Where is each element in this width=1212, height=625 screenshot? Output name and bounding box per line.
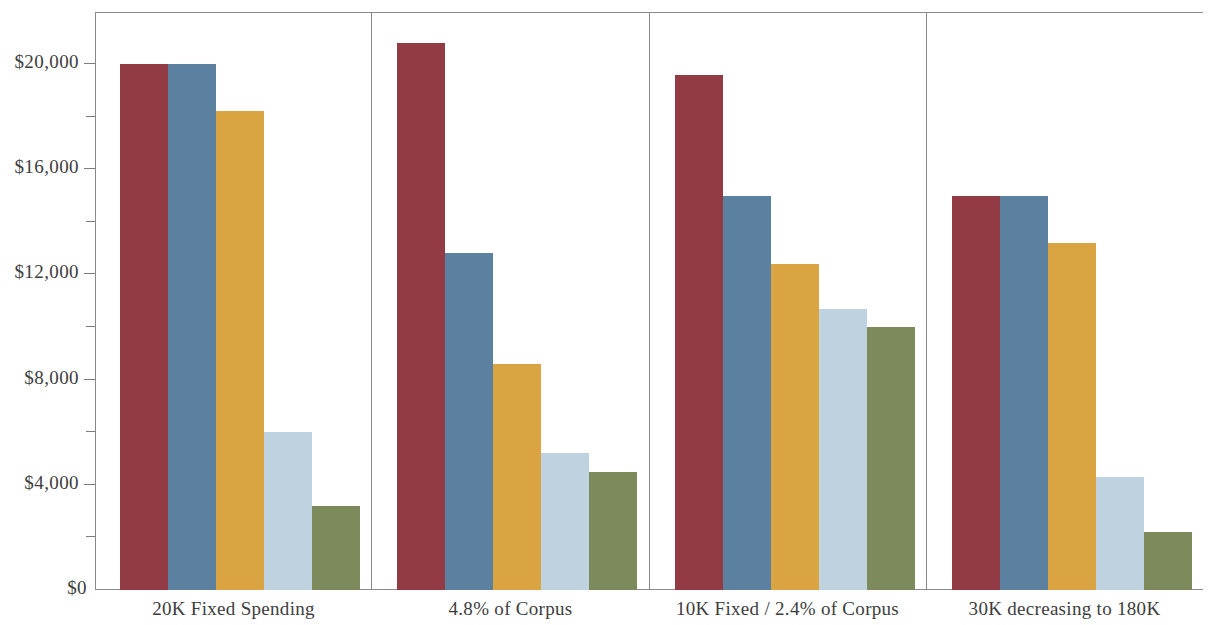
bar <box>397 43 445 590</box>
x-axis-label: 4.8% of Corpus <box>372 592 649 625</box>
bar-chart: $0$4,000$8,000$12,000$16,000$20,000 20K … <box>0 0 1212 625</box>
y-axis-tick-mark <box>84 379 95 380</box>
y-axis-tick-mark <box>86 431 95 432</box>
bar <box>1096 477 1144 590</box>
y-axis-tick-label: $4,000 <box>24 472 79 494</box>
y-axis-tick-mark <box>84 273 95 274</box>
bar <box>819 309 867 590</box>
y-axis: $0$4,000$8,000$12,000$16,000$20,000 <box>0 0 95 625</box>
y-axis-tick-mark <box>84 168 95 169</box>
y-axis-tick-label: $8,000 <box>24 367 79 389</box>
x-axis-label: 10K Fixed / 2.4% of Corpus <box>649 592 926 625</box>
bar <box>216 111 264 590</box>
bar <box>723 196 771 591</box>
chart-panel <box>926 12 1203 590</box>
bar-group <box>372 12 648 590</box>
chart-panel <box>95 12 371 590</box>
y-axis-tick-mark <box>84 484 95 485</box>
x-axis-label: 20K Fixed Spending <box>95 592 372 625</box>
bar <box>1000 196 1048 591</box>
bar <box>493 364 541 590</box>
y-axis-tick-label: $0 <box>67 577 87 599</box>
bar <box>589 472 637 590</box>
bar <box>312 506 360 590</box>
x-axis-labels: 20K Fixed Spending4.8% of Corpus10K Fixe… <box>95 592 1203 625</box>
bar <box>675 75 723 590</box>
bar <box>541 453 589 590</box>
bar-group <box>927 12 1203 590</box>
bar <box>952 196 1000 591</box>
y-axis-tick-mark <box>86 116 95 117</box>
bar <box>168 64 216 590</box>
bar <box>771 264 819 590</box>
bar-group <box>95 12 371 590</box>
y-axis-tick-label: $16,000 <box>14 156 79 178</box>
bar <box>120 64 168 590</box>
bar <box>1144 532 1192 590</box>
y-axis-tick-mark <box>86 536 95 537</box>
y-axis-tick-mark <box>86 326 95 327</box>
bar <box>1048 243 1096 590</box>
y-axis-tick-label: $12,000 <box>14 261 79 283</box>
bar <box>445 253 493 590</box>
bar-group <box>650 12 926 590</box>
y-axis-tick-mark <box>84 63 95 64</box>
x-axis-label: 30K decreasing to 180K <box>926 592 1203 625</box>
chart-panel <box>371 12 648 590</box>
y-axis-tick-mark <box>86 221 95 222</box>
bar <box>264 432 312 590</box>
chart-panel <box>649 12 926 590</box>
panel-group <box>95 12 1203 590</box>
y-axis-tick-label: $20,000 <box>14 51 79 73</box>
bar <box>867 327 915 590</box>
